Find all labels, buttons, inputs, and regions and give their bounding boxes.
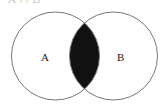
set-a-label: A [41, 51, 49, 63]
set-b-label: B [117, 51, 124, 63]
venn-diagram: A B [0, 0, 165, 107]
